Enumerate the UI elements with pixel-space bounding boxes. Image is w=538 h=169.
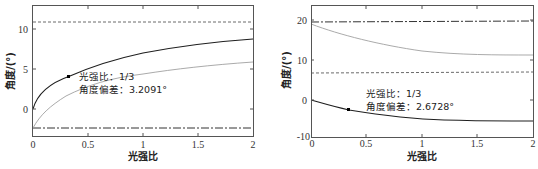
left-annotation-ratio: 光强比：1/3 bbox=[79, 71, 134, 82]
right-annotation-deviation: 角度偏差：2.6728° bbox=[366, 101, 454, 112]
right-ytick-0: 0 bbox=[302, 95, 307, 106]
left-ytick-5: 5 bbox=[23, 64, 28, 75]
right-y-axis-label: 角度/(°) bbox=[280, 51, 292, 89]
left-xtick-0.5: 0.5 bbox=[82, 139, 95, 150]
figure: 0 5 10 0 0.5 1 1.5 2 光强比 角度/(°) 光强比：1/3 … bbox=[0, 0, 538, 169]
left-marker bbox=[67, 75, 70, 78]
right-y-ticks bbox=[311, 20, 533, 100]
right-xtick-0: 0 bbox=[310, 138, 315, 149]
right-ytick-10: 10 bbox=[297, 55, 307, 66]
left-y-ticks bbox=[33, 29, 253, 109]
right-xtick-2: 2 bbox=[531, 138, 536, 149]
left-xtick-0: 0 bbox=[31, 139, 36, 150]
left-ytick-0: 0 bbox=[23, 104, 28, 115]
right-ytick-20: 20 bbox=[297, 15, 307, 26]
left-xtick-2: 2 bbox=[251, 139, 256, 150]
left-xtick-1: 1 bbox=[141, 139, 146, 150]
right-dashdot-line bbox=[311, 21, 533, 22]
right-ytick-minus10: -10 bbox=[297, 131, 310, 142]
right-chart: 20 10 0 -10 0 0.5 1 1.5 2 光强比 角度/(°) 光强比… bbox=[280, 6, 536, 163]
left-dotted-curve bbox=[33, 62, 253, 128]
right-marker bbox=[347, 108, 350, 111]
right-xtick-1: 1 bbox=[420, 138, 425, 149]
left-annotation-deviation: 角度偏差：3.2091° bbox=[79, 84, 167, 95]
left-plot-frame bbox=[33, 6, 254, 137]
left-xtick-1.5: 1.5 bbox=[192, 139, 205, 150]
right-xtick-0.5: 0.5 bbox=[360, 138, 373, 149]
right-xtick-1.5: 1.5 bbox=[471, 138, 484, 149]
left-y-axis-label: 角度/(°) bbox=[4, 52, 16, 90]
left-ytick-10: 10 bbox=[18, 24, 28, 35]
left-chart: 0 5 10 0 0.5 1 1.5 2 光强比 角度/(°) 光强比：1/3 … bbox=[4, 6, 256, 163]
right-plot-frame bbox=[312, 6, 534, 138]
right-x-axis-label: 光强比 bbox=[406, 150, 437, 162]
right-dotted-curve bbox=[311, 24, 533, 55]
right-x-ticks bbox=[366, 6, 477, 137]
right-annotation-ratio: 光强比：1/3 bbox=[366, 88, 421, 99]
left-x-axis-label: 光强比 bbox=[127, 150, 158, 162]
right-dashed-line bbox=[311, 72, 533, 73]
